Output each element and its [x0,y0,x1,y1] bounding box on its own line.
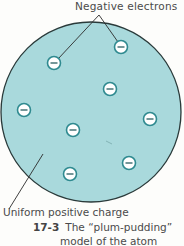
electron [67,124,80,137]
caption-line-1: The “plum-pudding” [65,221,172,233]
electron [48,57,61,70]
electron [18,104,31,117]
electron [144,113,157,126]
electron [115,41,128,54]
uniform-positive-charge-label: Uniform positive charge [3,206,129,218]
figure-number: 17-3 [33,221,59,233]
electron [64,168,77,181]
caption-line-2: model of the atom [60,235,157,246]
figure-caption: 17-3The “plum-pudding” [33,221,172,233]
negative-electrons-label: Negative electrons [75,0,177,12]
electron [104,83,117,96]
electron [123,157,136,170]
